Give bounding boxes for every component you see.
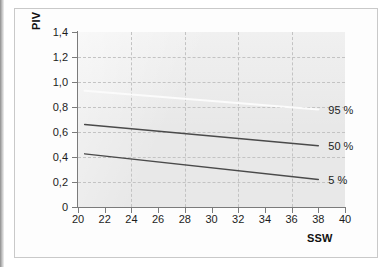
y-axis-tick-label: 0,6 (53, 127, 68, 138)
series-label: 95 % (328, 105, 353, 116)
y-axis-tick-label: 1,4 (53, 27, 68, 38)
scan-edge-shadow (0, 0, 4, 267)
y-axis-tick-label: 0,2 (53, 177, 68, 188)
x-axis-tick-label: 36 (279, 214, 305, 225)
x-axis-title: SSW (307, 232, 333, 244)
x-axis-tick-label: 20 (65, 214, 91, 225)
x-axis-tick-label: 34 (252, 214, 278, 225)
y-axis-tick-label: 0 (62, 202, 68, 213)
data-curves (78, 32, 345, 207)
x-axis-tick-label: 38 (305, 214, 331, 225)
y-axis-title: PIV (30, 12, 42, 30)
x-axis-tick-label: 30 (199, 214, 225, 225)
y-axis-tick-label: 0,8 (53, 102, 68, 113)
x-axis-tick-label: 32 (225, 214, 251, 225)
figure-container: PIV SSW 00,20,40,60,81,01,21,42022242628… (0, 0, 392, 267)
x-axis-tick-label: 22 (92, 214, 118, 225)
y-axis-tick-label: 1,2 (53, 52, 68, 63)
series-line-50 (85, 125, 319, 146)
series-line-95 (85, 91, 319, 110)
x-axis-tick-label: 26 (145, 214, 171, 225)
x-axis-tick-label: 40 (332, 214, 358, 225)
series-line-5 (85, 154, 319, 180)
x-axis-tick-label: 28 (172, 214, 198, 225)
x-axis-tick-label: 24 (118, 214, 144, 225)
series-label: 50 % (328, 141, 353, 152)
y-axis-tick-label: 0,4 (53, 152, 68, 163)
y-axis-tick-label: 1,0 (53, 77, 68, 88)
series-label: 5 % (328, 175, 347, 186)
